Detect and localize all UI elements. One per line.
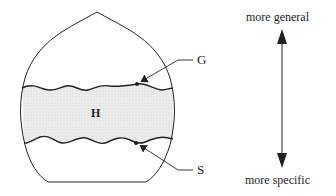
version-space-diagram [0,0,336,196]
axis-label-more-specific: more specific [245,173,310,188]
arrow-down-icon [277,153,287,168]
axis-label-more-general: more general [246,10,309,25]
label-s: S [197,162,204,178]
label-g: G [197,52,206,68]
g-point [135,82,139,86]
arrow-up-icon [277,29,287,44]
s-point [134,141,138,145]
region-label-h: H [91,106,100,121]
s-pointer-arrow [141,146,193,170]
